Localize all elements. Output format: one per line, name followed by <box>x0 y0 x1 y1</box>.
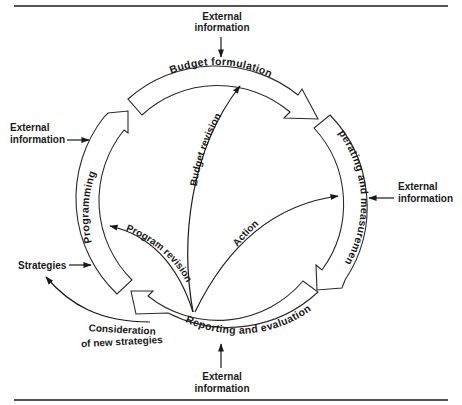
ext-info-top-line1: External <box>202 11 242 22</box>
ext-info-left-line1: External <box>10 122 50 133</box>
ext-info-bottom-line1: External <box>202 371 242 382</box>
action-arrow <box>195 196 338 312</box>
ext-info-right-line2: information <box>398 193 453 204</box>
consideration-line2: of new strategies <box>81 334 164 349</box>
ext-info-right-line1: External <box>398 181 438 192</box>
budget-revision-label: Budget revision <box>188 111 223 187</box>
cycle-diagram: Budget formulation Operating and measure… <box>0 0 462 405</box>
ext-info-bottom-line2: information <box>195 383 250 394</box>
ext-info-left-line2: information <box>10 134 65 145</box>
action-label: Action <box>230 218 260 248</box>
strategies-label: Strategies <box>18 260 67 271</box>
ext-info-top-line2: information <box>195 22 250 33</box>
